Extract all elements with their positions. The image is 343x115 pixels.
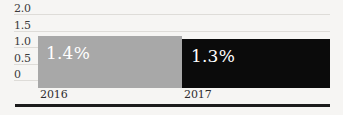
bar-value-label-2016: 1.4% — [46, 45, 90, 62]
bar-chart: 2.0 1.5 1.0 0.5 0 1.4% 1.3% 2016 2017 — [0, 0, 343, 115]
y-axis-tick-label-2-0: 2.0 — [14, 3, 42, 14]
x-axis-tick-label-2017: 2017 — [184, 89, 212, 101]
bar-2017: 1.3% — [182, 39, 330, 88]
plot-area: 2.0 1.5 1.0 0.5 0 1.4% 1.3% 2016 2017 — [0, 0, 343, 115]
gridline-1-5 — [14, 31, 330, 32]
bar-2016: 1.4% — [38, 36, 182, 88]
gridline-2-0 — [14, 14, 330, 15]
bar-value-label-2017: 1.3% — [191, 48, 235, 65]
y-axis-tick-label-1-5: 1.5 — [14, 20, 42, 31]
x-axis-tick-label-2016: 2016 — [40, 89, 68, 101]
baseline-rule — [15, 104, 330, 107]
